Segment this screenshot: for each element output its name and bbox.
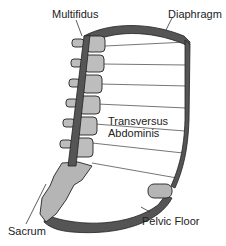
sacrum-bone (40, 162, 92, 222)
label-transversus-abdominis: Transversus Abdominis (108, 115, 168, 139)
label-transversus-line2: Abdominis (108, 127, 168, 139)
transversus-abdominis-fibres (92, 42, 187, 178)
label-pelvic-floor: Pelvic Floor (142, 215, 199, 227)
pelvic-floor-bone (148, 184, 172, 198)
label-transversus-line1: Transversus (108, 115, 168, 127)
abdominal-wall (171, 40, 190, 188)
label-sacrum: Sacrum (8, 225, 46, 237)
label-multifidus: Multifidus (52, 8, 98, 20)
label-diaphragm: Diaphragm (168, 8, 222, 20)
